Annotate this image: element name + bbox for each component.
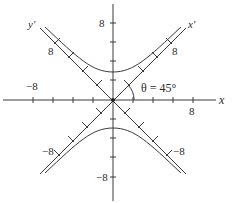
angle-label: θ = 45° [141,81,177,95]
hyperbola-diagram: x x′ y′ −8 8 8 −8 8 −8 8 −8 θ = 45° [0,0,238,203]
x-neg8-label: −8 [26,80,38,92]
y-prime-label: y′ [27,18,36,30]
x-prime-label: x′ [187,18,196,30]
y-prime-pos8-label: 8 [48,45,54,57]
x-pos8-label: 8 [189,105,195,117]
y-neg8-label: −8 [96,171,108,183]
x-prime-pos8-label: 8 [172,45,178,57]
y-pos8-label: 8 [99,17,105,29]
origin-point [111,98,115,102]
x-prime-neg8-label: −8 [42,145,54,157]
y-prime-neg8-label: −8 [173,145,185,157]
x-axis-label: x [218,93,225,107]
